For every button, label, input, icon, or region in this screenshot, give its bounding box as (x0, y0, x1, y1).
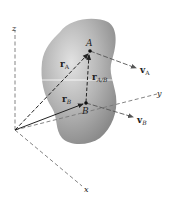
y-axis-label: y (156, 89, 162, 98)
vB-label: vB (136, 115, 147, 126)
point-B-label: B (81, 106, 89, 116)
z-axis-label: z (11, 24, 17, 33)
point-A (88, 49, 92, 53)
point-A-label: A (85, 38, 93, 48)
rigid-body-kinematics-diagram: z y x A B rA rA/B rB vA vB (0, 0, 175, 200)
x-axis-label: x (84, 185, 89, 194)
vA-label: vA (139, 65, 150, 76)
point-B (84, 101, 88, 105)
